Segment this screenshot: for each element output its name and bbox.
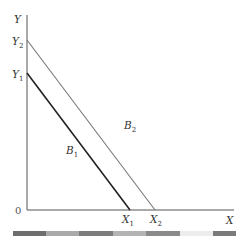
b1-line-label: B1	[65, 144, 78, 159]
bar-segment	[79, 231, 113, 236]
x-axis-label: X	[225, 214, 234, 226]
budget-line-b1	[27, 73, 130, 210]
y1-intercept-label: Y1	[12, 68, 23, 83]
y2-intercept-label: Y2	[12, 35, 23, 50]
bar-segment	[46, 231, 79, 236]
bar-segment	[113, 231, 146, 236]
x1-intercept-label: X1	[121, 213, 134, 228]
bar-segment	[213, 231, 236, 236]
origin-label: 0	[15, 205, 21, 216]
y-axis-label: Y	[14, 13, 22, 25]
budget-line-diagram: Y X 0 Y2 Y1 X1 X2 B1 B2	[0, 0, 249, 238]
budget-line-b2	[27, 40, 155, 210]
b2-line-label: B2	[123, 119, 136, 134]
bar-segment	[13, 231, 46, 236]
x2-intercept-label: X2	[149, 213, 162, 228]
bar-segment	[180, 231, 213, 236]
bar-segment	[146, 231, 180, 236]
